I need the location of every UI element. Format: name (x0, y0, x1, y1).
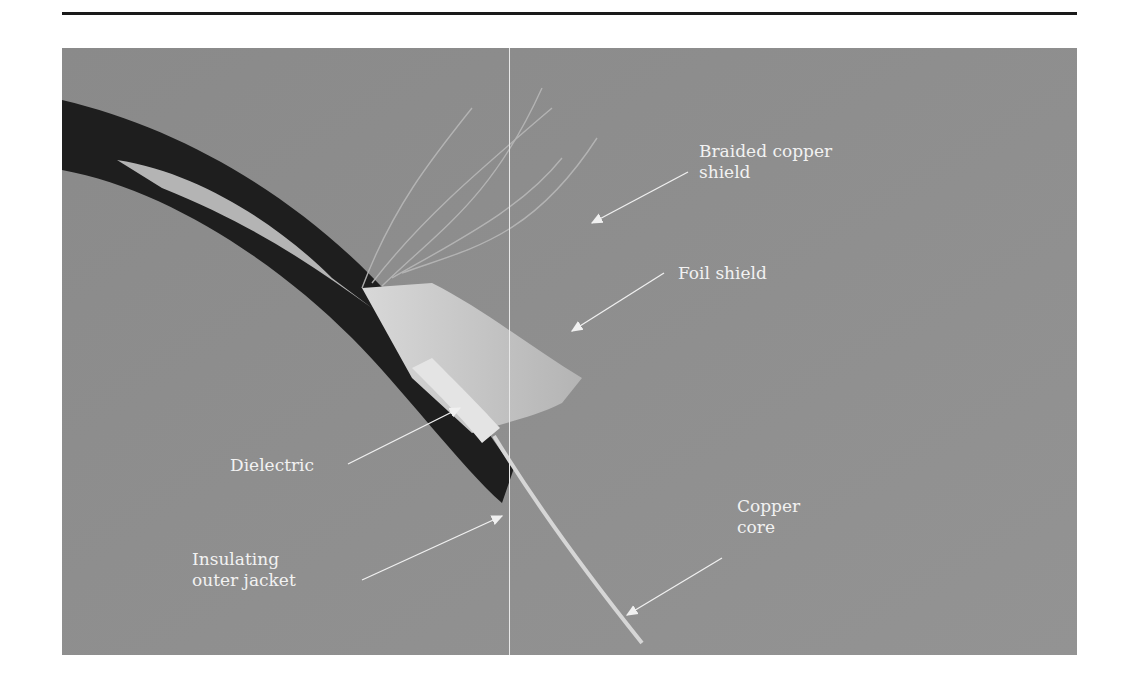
label-line: core (737, 517, 800, 538)
label-braided-shield: Braided copper shield (699, 141, 832, 183)
label-dielectric: Dielectric (230, 455, 314, 476)
label-line: Insulating (192, 549, 296, 570)
label-line: shield (699, 162, 832, 183)
label-line: outer jacket (192, 570, 296, 591)
top-rule (62, 12, 1077, 15)
page-fold-line (509, 48, 510, 655)
label-foil-shield: Foil shield (678, 263, 767, 284)
label-line: Copper (737, 496, 800, 517)
label-jacket: Insulating outer jacket (192, 549, 296, 591)
label-line: Braided copper (699, 141, 832, 162)
label-copper-core: Copper core (737, 496, 800, 538)
